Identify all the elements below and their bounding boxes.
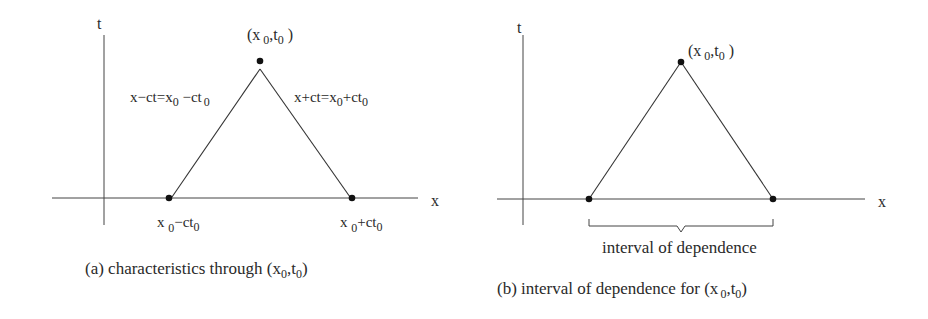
panel-b: t x (x0,t0 ) interval of dependence (b) … [497,19,886,301]
t-axis-label: t [517,19,522,36]
left-characteristic [589,62,681,199]
apex-point [257,58,264,65]
diagram-canvas: t x (x0,t0 ) x−ct=x0 −ct0 x+ct=x0+ct0 x … [0,0,928,319]
left-characteristic-label: x−ct=x0 −ct0 [130,89,210,109]
apex-label: (x0,t0 ) [247,26,293,47]
left-foot-label: x 0−ct0 [157,214,200,235]
interval-label: interval of dependence [602,238,757,257]
panel-a: t x (x0,t0 ) x−ct=x0 −ct0 x+ct=x0+ct0 x … [52,15,439,281]
right-foot-label: x 0+ct0 [340,214,383,235]
x-axis-label: x [878,193,886,210]
interval-brace [589,219,773,232]
right-foot-point [770,196,777,203]
caption-b: (b) interval of dependence for (x0,t0) [497,279,747,301]
left-foot-point [586,196,593,203]
right-foot-point [349,195,356,202]
caption-a: (a) characteristics through (x0,t0) [85,259,308,281]
right-characteristic [681,62,773,199]
left-foot-point [166,195,173,202]
apex-label: (x0,t0 ) [688,42,734,63]
apex-point [678,59,685,66]
right-characteristic-label: x+ct=x0+ct0 [294,89,368,109]
x-axis-label: x [431,192,439,209]
t-axis-label: t [97,15,102,32]
